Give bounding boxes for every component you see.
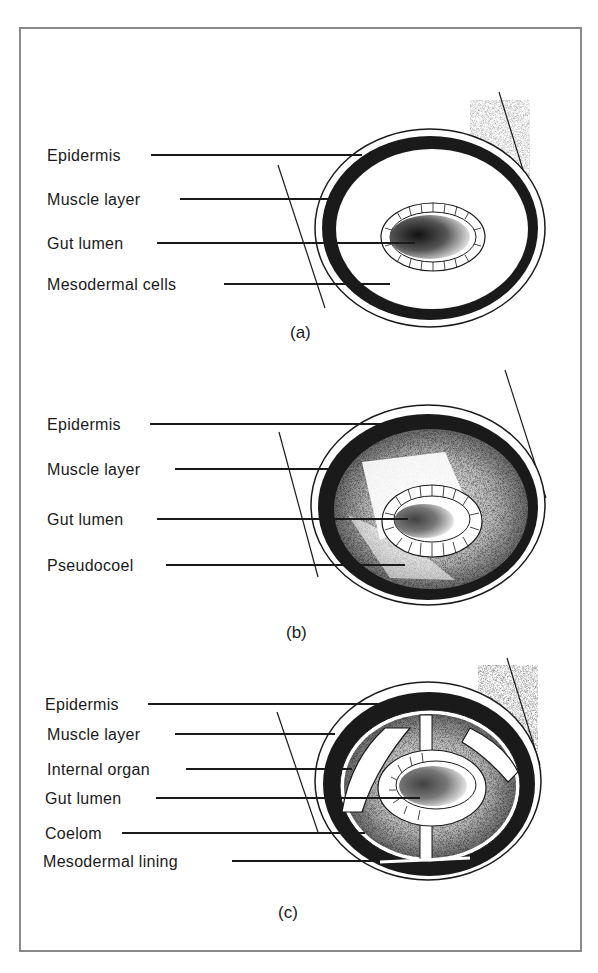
panel-c: Epidermis Muscle layer Internal organ Gu… [43, 658, 541, 922]
label-muscle-layer-c: Muscle layer [47, 726, 141, 743]
label-mesodermal-cells-a: Mesodermal cells [47, 276, 176, 293]
label-muscle-layer-a: Muscle layer [47, 191, 141, 208]
panel-a: Epidermis Muscle layer Gut lumen Mesoder… [47, 92, 545, 342]
gut-lumen [394, 504, 454, 538]
gut-lumen [399, 766, 467, 806]
label-gut-lumen-b: Gut lumen [47, 511, 124, 528]
label-epidermis-b: Epidermis [47, 416, 121, 433]
label-epidermis-c: Epidermis [45, 696, 119, 713]
caption-a: (a) [290, 323, 311, 342]
panel-b: Epidermis Muscle layer Gut lumen Pseudoc… [47, 370, 546, 642]
label-gut-lumen-c: Gut lumen [45, 790, 122, 807]
caption-c: (c) [278, 903, 298, 922]
gut [378, 750, 486, 826]
label-internal-organ-c: Internal organ [47, 761, 150, 778]
gut [381, 203, 485, 271]
label-pseudocoel-b: Pseudocoel [47, 557, 134, 574]
label-gut-lumen-a: Gut lumen [47, 235, 124, 252]
label-coelom-c: Coelom [45, 825, 102, 842]
caption-b: (b) [286, 623, 307, 642]
label-epidermis-a: Epidermis [47, 147, 121, 164]
body-cavity-diagram: Epidermis Muscle layer Gut lumen Mesoder… [0, 0, 598, 973]
gut [382, 485, 482, 557]
gut-lumen [390, 215, 470, 259]
dorsal-mesentery [420, 715, 432, 755]
tube-edge-left [277, 712, 318, 832]
label-muscle-layer-b: Muscle layer [47, 461, 141, 478]
label-mesodermal-lining-c: Mesodermal lining [43, 853, 178, 870]
